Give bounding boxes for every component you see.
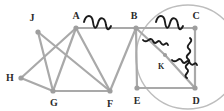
graph-svg (0, 0, 224, 111)
graph-node-a[interactable] (73, 25, 78, 30)
graph-diagram-canvas: JABCHGFEDK (0, 0, 224, 111)
squiggle-on-edge-kd (172, 59, 197, 65)
edge-layer (21, 28, 195, 91)
graph-edge-j-f (38, 32, 110, 91)
graph-node-d[interactable] (192, 85, 197, 90)
graph-node-f[interactable] (107, 88, 112, 93)
graph-node-h[interactable] (18, 75, 23, 80)
graph-node-b[interactable] (133, 25, 138, 30)
graph-edge-e-b (136, 28, 137, 88)
graph-node-j[interactable] (35, 29, 40, 34)
graph-node-k[interactable] (163, 53, 167, 57)
graph-node-g[interactable] (50, 88, 55, 93)
graph-node-e[interactable] (134, 85, 139, 90)
squiggle-on-edge-cd (185, 38, 191, 78)
squiggle-on-edge-bk (143, 39, 168, 45)
graph-edge-a-f (76, 28, 110, 91)
graph-node-c[interactable] (192, 25, 197, 30)
squiggle-layer (84, 16, 197, 78)
graph-edge-b-f (110, 28, 136, 91)
annotation-circle (136, 5, 224, 109)
annotation-circle-layer (136, 5, 224, 109)
graph-edge-h-g (21, 78, 53, 91)
